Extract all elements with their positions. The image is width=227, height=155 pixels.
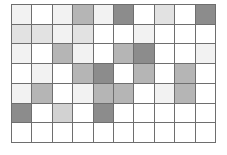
heatmap-cell [53, 44, 72, 63]
heatmap-cell [53, 64, 72, 83]
heatmap-cell [155, 44, 174, 63]
heatmap-cell [175, 25, 194, 44]
heatmap-cell [73, 5, 92, 24]
heatmap-cell [32, 123, 51, 142]
heatmap-cell [53, 104, 72, 123]
heatmap-cell [12, 25, 31, 44]
heatmap-cell [32, 64, 51, 83]
heatmap-cell [94, 25, 113, 44]
heatmap-cell [94, 64, 113, 83]
heatmap-grid [11, 4, 216, 143]
heatmap-cell [196, 25, 215, 44]
heatmap-cell [94, 84, 113, 103]
heatmap-cell [12, 64, 31, 83]
heatmap-cell [12, 104, 31, 123]
heatmap-cell [12, 44, 31, 63]
heatmap-cell [32, 104, 51, 123]
heatmap-cell [53, 84, 72, 103]
heatmap-cell [155, 5, 174, 24]
heatmap-cell [196, 5, 215, 24]
heatmap-cell [114, 44, 133, 63]
heatmap-cell [175, 64, 194, 83]
heatmap-cell [155, 104, 174, 123]
heatmap-cell [12, 123, 31, 142]
heatmap-cell [155, 123, 174, 142]
heatmap-cell [175, 5, 194, 24]
grid-heatmap-figure [0, 0, 227, 155]
heatmap-cell [175, 44, 194, 63]
heatmap-cell [73, 64, 92, 83]
heatmap-cell [196, 104, 215, 123]
heatmap-cell [114, 104, 133, 123]
heatmap-cell [73, 104, 92, 123]
heatmap-cell [73, 123, 92, 142]
heatmap-cell [155, 84, 174, 103]
heatmap-cell [73, 25, 92, 44]
heatmap-cell [134, 104, 153, 123]
heatmap-cell [73, 84, 92, 103]
heatmap-cell [53, 25, 72, 44]
heatmap-cell [134, 64, 153, 83]
heatmap-cell [134, 44, 153, 63]
heatmap-cell [32, 84, 51, 103]
heatmap-cell [155, 64, 174, 83]
heatmap-cell [114, 64, 133, 83]
heatmap-cell [114, 5, 133, 24]
heatmap-cell [196, 44, 215, 63]
heatmap-cell [32, 25, 51, 44]
heatmap-cell [196, 123, 215, 142]
heatmap-cell [94, 5, 113, 24]
heatmap-cell [53, 5, 72, 24]
heatmap-cell [134, 5, 153, 24]
heatmap-cell [134, 123, 153, 142]
heatmap-cell [134, 84, 153, 103]
heatmap-cell [73, 44, 92, 63]
heatmap-cell [155, 25, 174, 44]
heatmap-cell [94, 44, 113, 63]
heatmap-cell [12, 84, 31, 103]
heatmap-cell [32, 5, 51, 24]
heatmap-cell [134, 25, 153, 44]
heatmap-cell [196, 64, 215, 83]
heatmap-cell [53, 123, 72, 142]
heatmap-cell [114, 84, 133, 103]
heatmap-cell [94, 123, 113, 142]
heatmap-cell [94, 104, 113, 123]
heatmap-cell [175, 84, 194, 103]
heatmap-cell [175, 123, 194, 142]
heatmap-cell [114, 123, 133, 142]
heatmap-cell [175, 104, 194, 123]
heatmap-cell [196, 84, 215, 103]
heatmap-cell [12, 5, 31, 24]
heatmap-cell [32, 44, 51, 63]
heatmap-cell [114, 25, 133, 44]
